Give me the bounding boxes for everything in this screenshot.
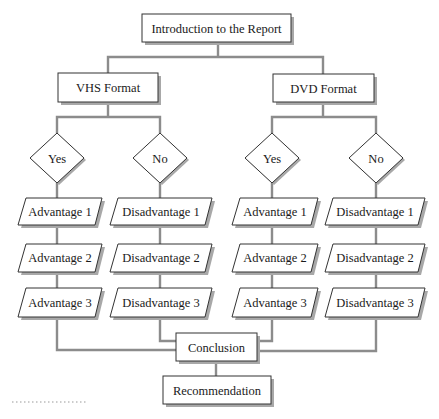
connector-root-branch — [108, 57, 323, 74]
node-vhs-format-label: VHS Format — [76, 81, 141, 95]
node-introduction: Introduction to the Report — [142, 14, 294, 45]
item-label: Advantage 2 — [28, 251, 92, 265]
decision-vhs-no: No — [133, 133, 189, 185]
item-dvd-disadvantage-2: Disadvantage 2 — [325, 244, 428, 275]
node-conclusion: Conclusion — [176, 333, 260, 364]
decision-dvd-yes-label: Yes — [263, 152, 281, 166]
item-label: Advantage 3 — [243, 296, 307, 310]
item-vhs-disadvantage-2: Disadvantage 2 — [110, 244, 215, 275]
item-label: Advantage 1 — [243, 205, 307, 219]
node-dvd-format-label: DVD Format — [290, 82, 357, 96]
item-vhs-disadvantage-1: Disadvantage 1 — [110, 198, 215, 228]
item-label: Advantage 1 — [28, 205, 92, 219]
item-vhs-disadvantage-3: Disadvantage 3 — [110, 288, 215, 320]
node-introduction-label: Introduction to the Report — [151, 22, 282, 36]
node-vhs-format: VHS Format — [58, 73, 161, 105]
decision-vhs-no-label: No — [152, 152, 167, 166]
node-dvd-format: DVD Format — [273, 74, 377, 105]
item-label: Advantage 3 — [28, 296, 92, 310]
decision-dvd-yes: Yes — [245, 133, 301, 185]
node-recommendation: Recommendation — [163, 376, 274, 407]
item-dvd-advantage-1: Advantage 1 — [232, 198, 321, 228]
item-label: Disadvantage 2 — [336, 251, 413, 265]
item-label: Disadvantage 2 — [122, 251, 199, 265]
node-recommendation-label: Recommendation — [173, 384, 262, 398]
item-vhs-advantage-1: Advantage 1 — [18, 198, 105, 228]
item-vhs-advantage-2: Advantage 2 — [18, 244, 105, 275]
item-vhs-advantage-3: Advantage 3 — [18, 288, 105, 320]
decision-vhs-yes: Yes — [30, 133, 86, 185]
item-dvd-advantage-3: Advantage 3 — [232, 288, 321, 320]
item-label: Disadvantage 1 — [122, 205, 199, 219]
item-label: Disadvantage 3 — [336, 296, 413, 310]
node-conclusion-label: Conclusion — [188, 341, 246, 355]
item-dvd-disadvantage-1: Disadvantage 1 — [325, 198, 428, 228]
item-label: Advantage 2 — [243, 251, 307, 265]
decision-vhs-yes-label: Yes — [48, 152, 66, 166]
connector-dvd-branch — [272, 117, 376, 133]
decision-dvd-no-label: No — [368, 152, 383, 166]
decision-dvd-no: No — [349, 133, 405, 185]
connector-vhs-branch — [57, 117, 160, 133]
flowchart: Introduction to the Report VHS Format DV… — [0, 0, 439, 419]
item-dvd-disadvantage-3: Disadvantage 3 — [325, 288, 428, 320]
item-dvd-advantage-2: Advantage 2 — [232, 244, 321, 275]
item-label: Disadvantage 1 — [336, 205, 413, 219]
item-label: Disadvantage 3 — [122, 296, 199, 310]
